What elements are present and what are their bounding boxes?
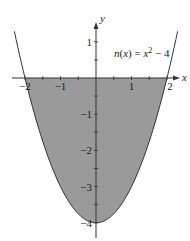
y-tick-label: −3 [80, 181, 92, 193]
x-tick-label: −2 [19, 80, 31, 92]
x-tick-label: 1 [129, 80, 135, 92]
y-tick-label: −1 [80, 108, 92, 120]
function-label: n(x) = x2 − 4 [114, 46, 170, 60]
y-axis-label: y [99, 12, 105, 24]
parabola-chart: −2−1121−1−2−3−4 x y n(x) = x2 − 4 [0, 0, 190, 241]
y-tick-label: −2 [80, 144, 92, 156]
y-tick-label: −4 [80, 217, 92, 229]
x-tick-label: 2 [167, 80, 173, 92]
y-tick-label: 1 [87, 36, 93, 48]
x-axis-label: x [181, 71, 187, 83]
x-tick-label: −1 [55, 80, 67, 92]
